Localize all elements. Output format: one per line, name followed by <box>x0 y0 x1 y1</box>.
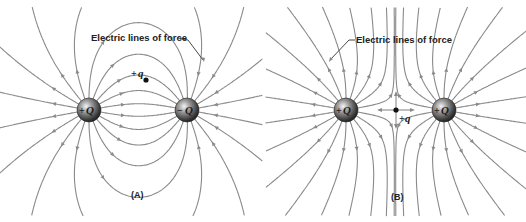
panel-b-callout-pointer <box>330 40 355 60</box>
panel-b-field-line <box>403 8 434 105</box>
panel-b-field-line <box>358 112 395 216</box>
panel-b-test-charge <box>393 107 398 112</box>
panel-a-test-charge-sign: + <box>131 68 137 79</box>
panel-a-callout-arrowhead <box>201 57 205 62</box>
panel-a-field-line <box>99 91 177 105</box>
panel-b-field-line <box>349 121 358 215</box>
panel-b: Electric lines of force + q + Q + Q (B) <box>265 7 526 216</box>
panel-b-field-line <box>322 7 346 98</box>
panel-a-field-arrow <box>214 114 218 118</box>
panel-a-field-line <box>32 119 82 215</box>
charge-sign: + <box>434 105 440 116</box>
panel-a-field-arrow <box>52 114 56 118</box>
panel-b-field-line <box>350 8 358 99</box>
panel-a-charge-negative: − Q <box>175 98 199 122</box>
panel-a-field-line <box>191 7 202 98</box>
panel-a-field-arrow <box>119 92 123 96</box>
panel-a: Electric lines of force + q + Q − Q (A) <box>0 7 262 216</box>
panel-a-field-line <box>0 92 77 108</box>
panel-b-field-line <box>322 122 347 215</box>
panel-b-field-arrow <box>444 148 448 152</box>
panel-b-field-line <box>448 7 502 98</box>
panel-a-field-arrow <box>119 124 123 128</box>
panel-b-callout-label: Electric lines of force <box>356 34 452 45</box>
charge-symbol: Q <box>185 104 193 116</box>
panel-b-field-arrow <box>444 68 448 72</box>
panel-a-charge-positive: + Q <box>77 98 101 122</box>
panel-a-field-line <box>101 104 176 108</box>
panel-a-field-arrow <box>76 146 80 150</box>
panel-a-field-arrow <box>76 69 80 73</box>
panel-a-field-line <box>191 121 202 216</box>
charge-sign: + <box>336 105 342 116</box>
panel-b-field-line <box>456 112 526 123</box>
panel-b-tag: (B) <box>391 192 404 202</box>
panel-b-field-line <box>396 8 433 108</box>
charge-symbol: Q <box>441 104 449 116</box>
charge-symbol: Q <box>343 104 351 116</box>
panel-a-field-line <box>74 121 85 216</box>
panel-b-field-line <box>433 121 442 215</box>
panel-b-test-charge-symbol: q <box>405 112 411 124</box>
panel-b-field-arrow <box>342 148 346 152</box>
panel-a-field-arrow <box>197 72 201 76</box>
panel-b-field-line <box>433 8 441 99</box>
panel-a-field-line <box>101 112 176 116</box>
panel-a-field-arrow <box>52 102 56 106</box>
panel-a-test-charge-symbol: q <box>138 67 144 79</box>
panel-b-charge-positive-right: + Q <box>432 98 456 122</box>
charge-sign: − <box>177 105 183 116</box>
charge-symbol: Q <box>86 104 94 116</box>
panel-b-field-line <box>358 8 395 108</box>
charge-sign: + <box>79 105 85 116</box>
panel-a-field-line <box>32 7 81 101</box>
panel-a-field-arrow <box>214 102 218 106</box>
panel-a-callout-label: Electric lines of force <box>91 32 187 43</box>
panel-a-field-line <box>0 112 77 128</box>
panel-b-field-line <box>265 97 334 108</box>
panel-b-charge-positive-left: + Q <box>334 98 358 122</box>
panel-b-field-line <box>356 8 387 105</box>
panel-a-field-arrow <box>197 145 201 149</box>
panel-a-field-line <box>74 7 85 98</box>
panel-b-field-line <box>285 121 342 215</box>
field-lines-figure: Electric lines of force + q + Q − Q (A) … <box>0 0 526 222</box>
panel-a-field-line <box>195 119 245 215</box>
panel-a-field-line <box>99 116 177 130</box>
panel-b-field-line <box>265 112 334 123</box>
panel-a-field-line <box>93 121 183 166</box>
panel-b-field-line <box>448 121 505 215</box>
panel-b-field-line <box>444 122 469 215</box>
panel-b-field-arrow <box>342 68 346 72</box>
panel-b-field-line <box>456 97 526 108</box>
panel-a-field-line <box>195 7 244 101</box>
panel-b-field-line <box>288 7 342 98</box>
panel-a-field-line <box>97 119 181 145</box>
panel-a-tag: (A) <box>131 190 144 200</box>
panel-a-field-line <box>89 121 187 197</box>
panel-b-field-line <box>444 7 468 98</box>
panel-a-test-charge <box>143 77 148 82</box>
